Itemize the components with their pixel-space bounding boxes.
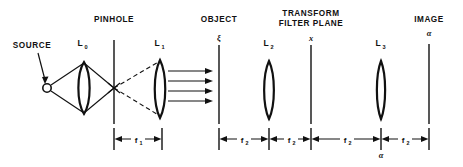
lens-subscript-L1: 1	[162, 44, 165, 50]
header-pinhole: PINHOLE	[94, 15, 134, 24]
lens-label-L3: L	[375, 38, 380, 48]
dimension-f1: f 1	[115, 133, 162, 146]
header-filter-plane: FILTER PLANE	[279, 19, 344, 28]
annotation-alpha: α	[379, 151, 384, 160]
dimension-label-f2-b: f	[288, 136, 291, 145]
lens-L0	[78, 62, 89, 114]
lens-subscript-L3: 3	[383, 44, 386, 50]
header-image: IMAGE	[414, 15, 444, 24]
lens-label-L0: L	[77, 38, 82, 48]
dimension-subscript-f1: 1	[140, 140, 143, 146]
dimension-subscript-f2-d: 2	[407, 140, 410, 146]
dimension-label-f2-a: f	[241, 136, 244, 145]
dimension-f2-object-to-L2: f 2	[220, 133, 269, 146]
source-point-icon	[43, 84, 51, 92]
source-pointer-arrow	[38, 53, 49, 84]
dimension-label-f2-d: f	[402, 136, 405, 145]
dimension-subscript-f2-b: 2	[293, 140, 296, 146]
ray-pinhole-to-L1-dashed	[114, 61, 160, 116]
axis-label-alpha: α	[427, 29, 432, 38]
lens-L3	[377, 61, 385, 119]
axis-label-xi: ξ	[217, 34, 221, 43]
dimension-subscript-f2-c: 2	[349, 140, 352, 146]
lens-L2	[264, 61, 274, 119]
lens-L1	[155, 60, 166, 118]
lens-label-L1: L	[154, 38, 159, 48]
axis-label-x: x	[308, 34, 313, 43]
dimension-label-f2-c: f	[344, 136, 347, 145]
optical-system-diagram: PINHOLE OBJECT TRANSFORM FILTER PLANE IM…	[0, 0, 463, 167]
source-label: SOURCE	[13, 41, 51, 50]
lens-subscript-L2: 2	[271, 44, 274, 50]
dimension-f2-L2-to-filter: f 2	[270, 133, 311, 146]
header-object: OBJECT	[201, 15, 238, 24]
lens-label-L2: L	[263, 38, 268, 48]
header-transform: TRANSFORM	[282, 9, 339, 18]
diagram-canvas: PINHOLE OBJECT TRANSFORM FILTER PLANE IM…	[0, 0, 463, 167]
dimension-f2-filter-to-L3: f 2	[312, 133, 381, 146]
collimated-ray-bundle	[168, 68, 213, 104]
lens-subscript-L0: 0	[85, 44, 88, 50]
dimension-label-f1: f	[135, 136, 138, 145]
dimension-subscript-f2-a: 2	[246, 140, 249, 146]
dimension-f2-L3-to-image: f 2	[382, 133, 429, 146]
